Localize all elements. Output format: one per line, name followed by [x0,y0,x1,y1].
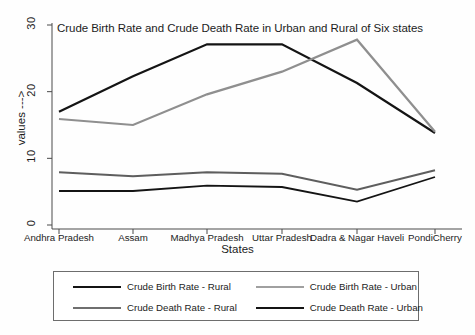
chart-page: Crude Birth Rate and Crude Death Rate in… [0,0,475,335]
page-title: Crude Birth Rate and Crude Death Rate in… [57,22,423,34]
legend-item: Crude Birth Rate - Rural [54,281,237,292]
legend-grid: Crude Birth Rate - RuralCrude Birth Rate… [54,272,418,320]
legend-swatch-icon [73,286,121,288]
axes-group [47,23,462,234]
x-tick-label: Andhra Pradesh [24,232,94,243]
legend-item: Crude Death Rate - Urban [237,302,423,313]
legend-label: Crude Birth Rate - Urban [310,281,417,292]
x-tick-label: Assam [118,232,148,243]
series-group [59,40,435,202]
legend-swatch-icon [256,286,304,288]
x-axis-label: States [0,243,475,255]
y-tick-label: 20 [25,77,37,103]
series-line-3 [59,177,435,202]
legend-label: Crude Death Rate - Urban [310,302,423,313]
legend-label: Crude Death Rate - Rural [127,302,237,313]
legend: Crude Birth Rate - RuralCrude Birth Rate… [53,271,419,321]
series-line-0 [59,44,435,133]
plot-area: Crude Birth Rate and Crude Death Rate in… [0,0,475,262]
legend-swatch-icon [256,307,304,309]
y-tick-label: 10 [25,143,37,169]
y-tick-label: 30 [25,10,37,36]
x-tick-label: PondiCherry [408,232,462,243]
x-tick-label: Dadra & Nagar Haveli [310,232,404,243]
line-chart-svg [0,0,475,262]
x-tick-label: Madhya Pradesh [170,232,243,243]
legend-swatch-icon [73,307,121,309]
legend-label: Crude Birth Rate - Rural [127,281,231,292]
x-tick-label: Uttar Pradesh [252,232,312,243]
legend-item: Crude Death Rate - Rural [54,302,237,313]
legend-item: Crude Birth Rate - Urban [237,281,423,292]
